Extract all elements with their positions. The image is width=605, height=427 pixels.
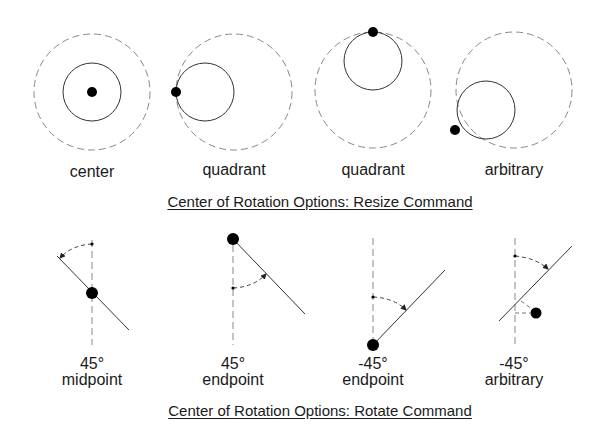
resized-circle (176, 63, 234, 121)
original-size-circle (456, 32, 572, 148)
resized-circle (457, 81, 515, 139)
rotate-label-endpoint-bottom: endpoint (342, 371, 403, 389)
center-point-dot (86, 287, 98, 299)
rotation-arc-arrow (60, 244, 92, 258)
resize-label-center: center (70, 163, 114, 181)
center-point-dot (87, 87, 97, 97)
rotate-label-arbitrary: arbitrary (485, 371, 544, 389)
resize-center-figure (34, 34, 150, 150)
center-point-dot (227, 233, 239, 245)
rotate-midpoint-figure (57, 240, 129, 345)
resize-section-title: Center of Rotation Options: Resize Comma… (167, 193, 472, 210)
offset-guide-diagonal (521, 301, 532, 309)
rotate-endpoint-top-figure (227, 233, 305, 345)
rotate-endpoint-bottom-figure (367, 238, 445, 351)
rotate-arbitrary-figure (499, 238, 572, 345)
rotation-arc-arrow (515, 256, 548, 269)
center-point-dot (367, 339, 379, 351)
resized-circle (344, 32, 402, 90)
rotate-label-midpoint: midpoint (62, 371, 122, 389)
arc-start-point (371, 295, 374, 298)
center-point-dot (531, 308, 542, 319)
resize-label-quadrant-left: quadrant (202, 161, 265, 179)
resize-quadrant-top-figure (315, 27, 431, 148)
rotation-arc-arrow (373, 297, 406, 310)
arc-start-point (513, 254, 516, 257)
rotate-section-title: Center of Rotation Options: Rotate Comma… (168, 402, 472, 419)
rotated-line (233, 239, 305, 314)
resize-label-arbitrary: arbitrary (485, 161, 544, 179)
arc-start-point (231, 286, 234, 289)
resize-label-quadrant-top: quadrant (341, 161, 404, 179)
rotate-label-endpoint-top: endpoint (202, 371, 263, 389)
arc-start-point (90, 242, 93, 245)
center-point-dot (171, 87, 181, 97)
resize-arbitrary-figure (450, 32, 572, 148)
resize-quadrant-left-figure (171, 34, 292, 150)
rotated-line (373, 270, 445, 345)
center-point-dot (368, 27, 378, 37)
rotation-arc-arrow (233, 274, 266, 288)
center-point-dot (450, 125, 460, 135)
